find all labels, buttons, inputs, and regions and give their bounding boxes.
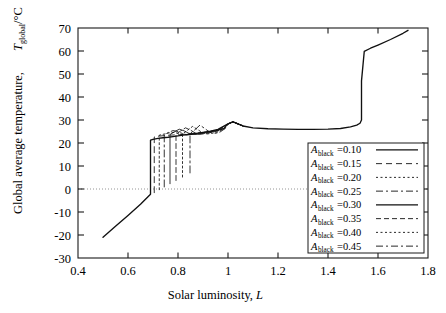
legend-value: =0.15 — [337, 158, 361, 169]
y-axis-title-unit: /°C — [11, 7, 25, 24]
y-tick-label: 0 — [65, 183, 71, 197]
legend-value: =0.25 — [337, 186, 361, 197]
y-tick-label: 60 — [59, 45, 72, 59]
y-tick-label: -10 — [54, 206, 71, 220]
y-tick-label: 50 — [59, 68, 72, 82]
x-tick-label: 0.6 — [120, 264, 136, 278]
legend-symbol: A — [310, 186, 318, 197]
legend-symbol: A — [310, 241, 318, 252]
legend-symbol: A — [310, 172, 318, 183]
legend-subscript: black — [318, 177, 334, 185]
x-tick-label: 0.8 — [170, 264, 186, 278]
x-tick-label: 1.8 — [420, 264, 436, 278]
legend-subscript: black — [318, 150, 334, 158]
legend: Ablack=0.10Ablack=0.15Ablack=0.20Ablack=… — [308, 143, 424, 254]
legend-subscript: black — [318, 246, 334, 254]
y-tick-label: 30 — [59, 114, 72, 128]
y-tick-label: -20 — [54, 229, 71, 243]
legend-value: =0.45 — [337, 241, 361, 252]
y-tick-label: 10 — [59, 160, 72, 174]
legend-symbol: A — [310, 158, 318, 169]
legend-subscript: black — [318, 191, 334, 199]
y-tick-label: 40 — [59, 91, 72, 105]
y-tick-label: -30 — [54, 252, 71, 266]
legend-subscript: black — [318, 205, 334, 213]
figure-container: 0.40.60.811.21.41.61.8 -30-20-1001020304… — [0, 0, 446, 313]
y-tick-label: 20 — [59, 137, 72, 151]
legend-value: =0.40 — [337, 227, 361, 238]
legend-value: =0.35 — [337, 213, 361, 224]
legend-value: =0.20 — [337, 172, 361, 183]
x-axis-title-text: Solar luminosity, — [168, 288, 253, 302]
x-tick-label: 1 — [225, 264, 231, 278]
x-tick-label: 1.4 — [320, 264, 336, 278]
y-tick-label: 70 — [59, 22, 72, 36]
legend-symbol: A — [310, 227, 318, 238]
legend-subscript: black — [318, 164, 334, 172]
legend-symbol: A — [310, 213, 318, 224]
legend-symbol: A — [310, 144, 318, 155]
bifurcation-chart: 0.40.60.811.21.41.61.8 -30-20-1001020304… — [0, 0, 446, 313]
x-tick-label: 1.2 — [270, 264, 286, 278]
legend-subscript: black — [318, 232, 334, 240]
x-tick-label: 0.4 — [70, 264, 86, 278]
legend-value: =0.10 — [337, 144, 361, 155]
legend-value: =0.30 — [337, 199, 361, 210]
x-axis-title: Solar luminosity, L — [168, 288, 263, 302]
legend-symbol: A — [310, 199, 318, 210]
legend-subscript: black — [318, 219, 334, 227]
x-axis-title-symbol: L — [255, 288, 263, 302]
y-axis-title-subscript: global — [18, 23, 27, 44]
x-tick-label: 1.6 — [370, 264, 386, 278]
y-axis-title-text: Global average temperature, — [11, 72, 25, 214]
